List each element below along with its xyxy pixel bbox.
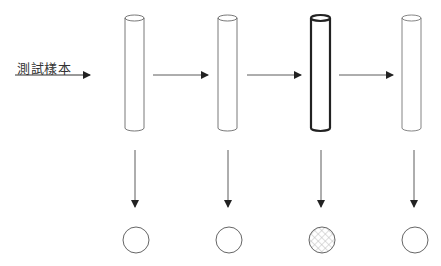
tube-1 bbox=[125, 15, 144, 131]
tube-4 bbox=[402, 15, 421, 131]
flow-diagram bbox=[0, 0, 441, 266]
result-circle-1 bbox=[123, 227, 149, 253]
tube-2 bbox=[218, 15, 237, 131]
result-circle-4 bbox=[402, 227, 428, 253]
tube-3-highlighted bbox=[311, 15, 330, 131]
result-circle-2 bbox=[216, 227, 242, 253]
result-circle-3-hatched bbox=[309, 227, 335, 253]
